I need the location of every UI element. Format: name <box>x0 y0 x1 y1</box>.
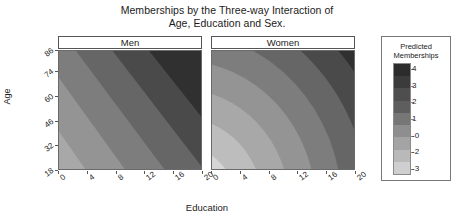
panel-men-header: Men <box>58 36 202 49</box>
colorbar <box>393 63 411 175</box>
colorbar-segment <box>394 101 410 113</box>
panel-women-plot <box>211 50 355 170</box>
colorbar-segment <box>394 76 410 88</box>
colorbar-segment <box>394 137 410 149</box>
chart-title-line-1: Memberships by the Three-way Interaction… <box>0 4 454 17</box>
x-axis-tick-label: 4 <box>88 173 96 182</box>
x-axis-title: Education <box>0 203 414 213</box>
panel-women-header: Women <box>211 36 355 49</box>
x-axis-tick-label: 8 <box>117 173 125 182</box>
chart-title: Memberships by the Three-way Interaction… <box>0 4 454 29</box>
colorbar-tick-label: 1 <box>412 115 416 123</box>
y-axis-tick-label: 60 <box>43 93 55 105</box>
legend-title-line-2: Memberships <box>382 51 450 60</box>
x-axis-tick-label: 8 <box>270 173 278 182</box>
colorbar-segment <box>394 162 410 174</box>
colorbar-tick-label: -2 <box>412 148 419 156</box>
chart-title-line-2: Age, Education and Sex. <box>0 17 454 30</box>
colorbar-segment <box>394 150 410 162</box>
colorbar-segment <box>394 113 410 125</box>
x-axis-tick-label: 4 <box>241 173 249 182</box>
x-axis-tick-label: 0 <box>59 173 67 182</box>
colorbar-segment <box>394 125 410 137</box>
y-axis-tick-label: 32 <box>43 142 55 154</box>
legend-title: Predicted Memberships <box>382 42 450 60</box>
colorbar-tick-label: -3 <box>412 165 419 173</box>
x-axis-tick-label: 12 <box>145 171 157 183</box>
contour-surface-men <box>58 50 202 170</box>
y-axis-title: Age <box>3 88 12 104</box>
colorbar-segment <box>394 64 410 76</box>
colorbar-tick-label: 3 <box>412 82 416 90</box>
colorbar-segment <box>394 88 410 100</box>
x-axis-tick-label: 20 <box>356 171 368 183</box>
panel-women: Women <box>211 36 355 170</box>
colorbar-tick-label: 2 <box>412 98 416 106</box>
x-axis-tick-label: 0 <box>212 173 220 182</box>
legend-box: Predicted Memberships 4321-0-2-3 <box>381 36 451 181</box>
contour-surface-women <box>211 50 355 170</box>
panel-men: Men <box>58 36 202 170</box>
x-axis-tick-label: 16 <box>327 171 339 183</box>
y-axis-tick-label: 18 <box>43 167 55 179</box>
colorbar-tick-label: -0 <box>412 132 419 140</box>
y-axis-tick-label: 46 <box>43 117 55 129</box>
legend-body: 4321-0-2-3 <box>393 63 441 175</box>
x-axis-tick-label: 12 <box>298 171 310 183</box>
y-axis-tick-label: 86 <box>43 47 55 59</box>
colorbar-tick-label: 4 <box>412 65 416 73</box>
y-axis-tick-label: 74 <box>43 68 55 80</box>
panel-men-plot <box>58 50 202 170</box>
chart-figure: Memberships by the Three-way Interaction… <box>0 0 454 224</box>
x-axis-tick-label: 16 <box>174 171 186 183</box>
legend-title-line-1: Predicted <box>382 42 450 51</box>
